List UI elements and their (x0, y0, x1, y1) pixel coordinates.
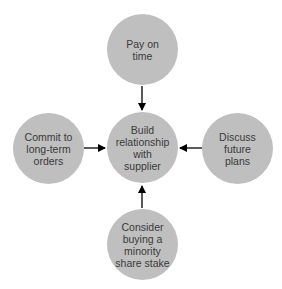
node-label-line: relationship (112, 136, 174, 148)
node-build-relationship: Buildrelationshipwithsupplier (107, 112, 178, 183)
node-label-line: Pay on (122, 38, 163, 50)
node-label-line: plans (215, 155, 260, 167)
node-label-line: with (112, 148, 174, 160)
node-label-line: supplier (112, 160, 174, 172)
node-label-line: Commit to (21, 131, 77, 143)
node-label-line: Consider (111, 221, 173, 233)
node-commit-long-term: Commit tolong-termorders (13, 113, 84, 184)
node-label-line: minority (111, 245, 173, 257)
node-pay-on-time: Pay ontime (107, 14, 178, 85)
node-label-line: Build (112, 124, 174, 136)
node-label-line: time (122, 50, 163, 62)
node-discuss-future: Discussfutureplans (202, 113, 273, 184)
node-label-line: orders (21, 155, 77, 167)
node-minority-stake: Considerbuying aminorityshare stake (107, 209, 178, 280)
node-label-line: Discuss (215, 131, 260, 143)
node-label-line: long-term (21, 143, 77, 155)
node-label-line: future (215, 143, 260, 155)
node-label-line: buying a (111, 233, 173, 245)
node-label-line: share stake (111, 257, 173, 269)
